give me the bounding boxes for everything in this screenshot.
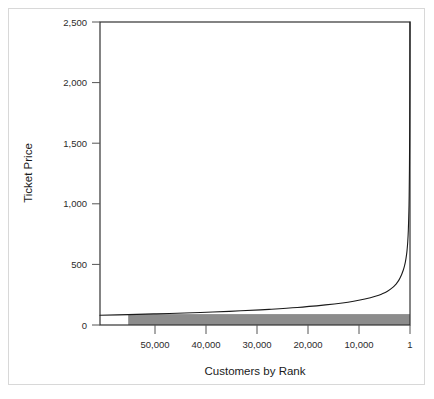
y-axis-title: Ticket Price [22, 143, 34, 203]
y-tick-label-0: 0 [82, 320, 87, 331]
y-tick-label-500: 500 [71, 259, 87, 270]
x-axis-title: Customers by Rank [205, 365, 306, 377]
x-axis-ticks [155, 325, 410, 334]
x-tick-label-10000: 10,000 [344, 339, 373, 350]
y-tick-label-2500: 2,500 [63, 17, 87, 28]
shaded-region-low-price [128, 314, 410, 325]
plot-area-background [100, 22, 410, 325]
ticket-price-rank-chart: 0 500 1,000 1,500 2,000 2,500 Ticket Pri… [0, 0, 434, 399]
x-tick-label-40000: 40,000 [191, 339, 220, 350]
x-tick-label-1: 1 [407, 339, 412, 350]
x-tick-label-50000: 50,000 [140, 339, 169, 350]
chart-figure: 0 500 1,000 1,500 2,000 2,500 Ticket Pri… [0, 0, 434, 399]
x-tick-label-30000: 30,000 [242, 339, 271, 350]
y-tick-label-1500: 1,500 [63, 138, 87, 149]
y-axis-tick-labels: 0 500 1,000 1,500 2,000 2,500 [63, 17, 87, 331]
y-tick-label-1000: 1,000 [63, 198, 87, 209]
y-axis-ticks [92, 22, 100, 325]
x-tick-label-20000: 20,000 [293, 339, 322, 350]
x-axis-tick-labels: 50,000 40,000 30,000 20,000 10,000 1 [140, 339, 412, 350]
y-tick-label-2000: 2,000 [63, 77, 87, 88]
